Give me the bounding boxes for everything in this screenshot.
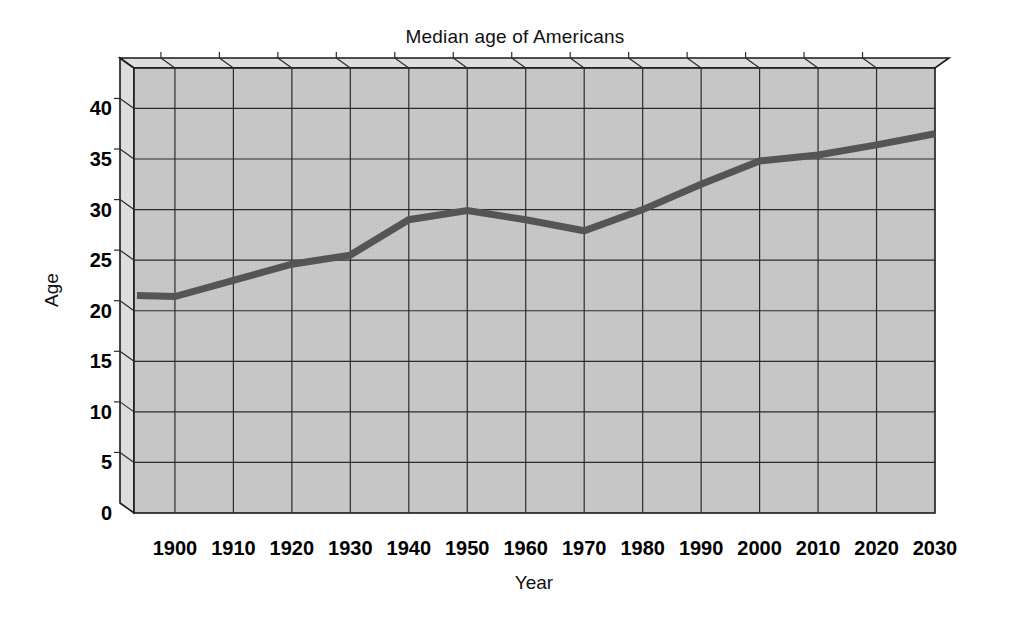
y-axis-title: Age (41, 273, 62, 307)
x-tick-label: 1950 (445, 537, 490, 559)
x-tick-label: 1910 (211, 537, 256, 559)
x-tick-label: 1980 (620, 537, 665, 559)
y-tick-label: 35 (90, 148, 112, 170)
y-tick-label: 40 (90, 97, 112, 119)
x-tick-label: 1900 (153, 537, 198, 559)
y-tick-label: 5 (101, 451, 112, 473)
x-tick-label: 1930 (328, 537, 373, 559)
y-tick-label: 30 (90, 199, 112, 221)
x-tick-label: 1920 (270, 537, 315, 559)
y-axis-tick-labels: 0510152025303540 (90, 97, 112, 524)
plot-area (134, 68, 935, 513)
y-tick-label: 10 (90, 401, 112, 423)
x-tick-label: 1960 (503, 537, 548, 559)
y-tick-label: 20 (90, 300, 112, 322)
x-tick-label: 1940 (387, 537, 432, 559)
x-tick-label: 2010 (796, 537, 841, 559)
x-tick-label: 1990 (679, 537, 724, 559)
y-tick-label: 25 (90, 249, 112, 271)
median-age-line-chart: 0510152025303540 19001910192019301940195… (0, 0, 1030, 631)
x-axis-tick-labels: 1900191019201930194019501960197019801990… (153, 537, 958, 559)
plot-top-wall-3d (120, 58, 949, 68)
x-tick-label: 2020 (854, 537, 899, 559)
y-tick-label: 15 (90, 350, 112, 372)
x-tick-label: 2000 (737, 537, 782, 559)
y-tick-label: 0 (101, 502, 112, 524)
plot-left-wall-3d (120, 58, 134, 513)
x-axis-title: Year (515, 572, 554, 593)
chart-container: Median age of Americans 05 (0, 0, 1030, 631)
x-tick-label: 1970 (562, 537, 607, 559)
x-tick-label: 2030 (913, 537, 958, 559)
